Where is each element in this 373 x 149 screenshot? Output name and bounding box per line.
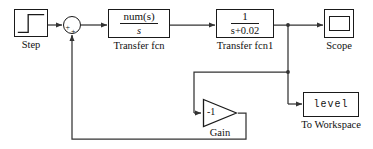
sum-feedback-sign: + [71,28,76,36]
gain-value: -1 [207,107,215,117]
sum-input-sign: + [66,24,71,32]
transfer-fcn-numerator: num(s) [120,11,157,24]
wire-junction-dot-gain-tap [286,70,290,74]
transfer-fcn1-expression: 1 s+0.02 [231,11,259,36]
transfer-fcn-denominator: s [120,24,157,36]
transfer-fcn1-block[interactable]: 1 s+0.02 [216,9,274,38]
transfer-fcn1-denominator: s+0.02 [231,24,259,36]
to-workspace-block-label: To Workspace [298,120,364,131]
step-block[interactable] [14,9,48,37]
scope-screen-icon [329,16,350,31]
gain-block-label: Gain [200,128,240,139]
scope-block[interactable] [324,9,354,38]
transfer-fcn1-numerator: 1 [231,11,259,24]
step-block-label: Step [14,40,48,51]
scope-block-label: Scope [319,41,359,52]
block-diagram-canvas: Step + + num(s) s Transfer fcn 1 s+0.02 … [0,0,373,149]
transfer-fcn1-block-label: Transfer fcn1 [208,41,282,52]
transfer-fcn-block[interactable]: num(s) s [108,9,170,38]
step-waveform-icon [15,10,47,36]
wire-junction-dot-output [286,23,290,27]
to-workspace-variable: level [313,99,348,110]
transfer-fcn-expression: num(s) s [120,11,157,36]
to-workspace-block[interactable]: level [303,92,359,117]
transfer-fcn-block-label: Transfer fcn [102,41,176,52]
